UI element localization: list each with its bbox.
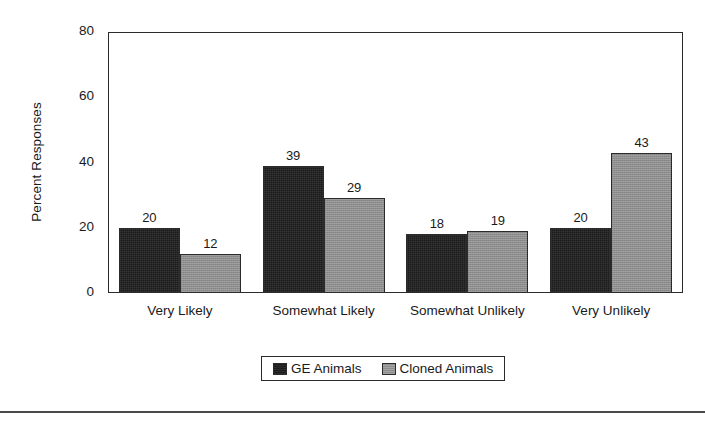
y-axis-tick-label: 60 [79, 88, 94, 103]
legend-color-swatch [382, 363, 396, 375]
y-axis-tick-label: 40 [79, 154, 94, 169]
bar: 29 [324, 198, 385, 293]
bar-value-label: 43 [634, 135, 648, 150]
bar: 43 [611, 153, 672, 293]
bar-value-label: 12 [203, 236, 217, 251]
x-axis-category-label: Very Likely [147, 303, 212, 318]
bar: 20 [550, 228, 611, 293]
y-axis-tick-label: 20 [79, 219, 94, 234]
bottom-divider-rule [0, 411, 705, 413]
bar: 39 [263, 166, 324, 293]
bar-value-label: 39 [286, 148, 300, 163]
legend-entry: Cloned Animals [382, 361, 494, 376]
bar: 19 [467, 231, 528, 293]
bar: 18 [406, 234, 467, 293]
bar: 12 [180, 254, 241, 293]
x-axis-category-label: Somewhat Likely [273, 303, 375, 318]
legend-entry: GE Animals [273, 361, 362, 376]
y-axis-tick-label: 0 [86, 284, 94, 299]
bar-value-label: 19 [491, 213, 505, 228]
chart-legend: GE AnimalsCloned Animals [261, 356, 505, 381]
x-axis-category-label: Somewhat Unlikely [410, 303, 525, 318]
y-axis-title: Percent Responses [26, 12, 48, 312]
bars-layer: 2012392918192043 [108, 32, 683, 293]
bar-value-label: 20 [142, 210, 156, 225]
legend-label: Cloned Animals [400, 361, 494, 376]
legend-color-swatch [273, 363, 287, 375]
bar: 20 [119, 228, 180, 293]
bar-chart-figure: Percent Responses 020406080 201239291819… [0, 0, 705, 422]
bar-value-label: 18 [430, 216, 444, 231]
bar-value-label: 20 [573, 210, 587, 225]
bar-value-label: 29 [347, 180, 361, 195]
x-axis-category-label: Very Unlikely [572, 303, 650, 318]
legend-label: GE Animals [291, 361, 362, 376]
x-axis-category-labels: Very LikelySomewhat LikelySomewhat Unlik… [108, 303, 683, 327]
y-axis-tick-label: 80 [79, 23, 94, 38]
